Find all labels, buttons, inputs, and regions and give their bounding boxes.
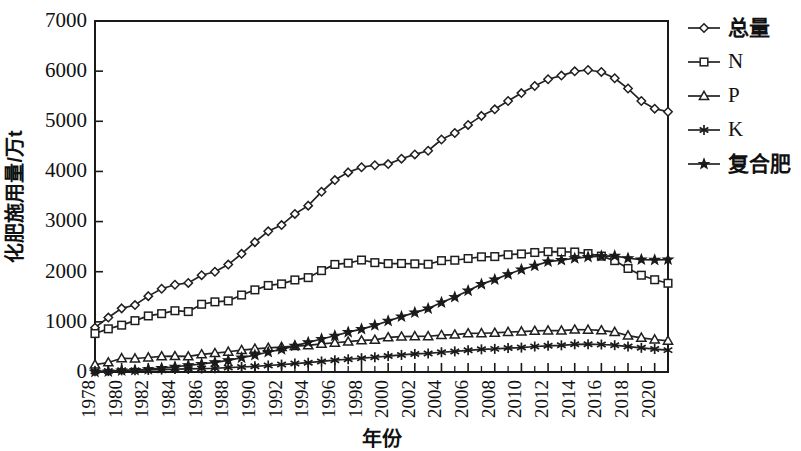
y-tick-label: 0 [77, 359, 88, 383]
x-tick-label: 2018 [611, 380, 632, 418]
x-tick-label: 1986 [185, 380, 206, 418]
y-tick-label: 5000 [45, 108, 87, 132]
x-tick-label: 2008 [478, 380, 499, 418]
y-tick-label: 6000 [45, 58, 87, 82]
legend-item-3[interactable]: P [688, 83, 740, 107]
x-axis-title: 年份 [362, 427, 403, 450]
fertilizer-usage-chart-figure: 01000200030004000500060007000 1978198019… [0, 0, 801, 451]
series-1 [91, 66, 672, 332]
x-tick-label: 1980 [105, 380, 126, 418]
chart-canvas: 01000200030004000500060007000 1978198019… [0, 0, 801, 451]
y-tick-label: 4000 [45, 158, 87, 182]
x-tick-label: 2020 [638, 380, 659, 418]
legend-item-1[interactable]: 总量 [688, 16, 770, 39]
x-tick-label: 1998 [345, 380, 366, 418]
legend-item-2[interactable]: N [688, 49, 743, 73]
legend-label: P [728, 83, 740, 107]
x-tick-label: 1984 [158, 380, 179, 419]
x-tick-label: 2002 [398, 380, 419, 418]
series-markers [91, 66, 672, 332]
legend-item-5[interactable]: 复合肥 [688, 152, 791, 175]
x-tick-label: 2014 [558, 380, 579, 419]
legend-label: K [728, 117, 743, 141]
legend-marker [699, 159, 709, 168]
x-tick-label: 1982 [131, 380, 152, 418]
x-tick-label: 2010 [504, 380, 525, 418]
legend-label: N [728, 49, 743, 73]
legend-marker [700, 24, 708, 32]
chart-legend: 总量NPK复合肥 [688, 16, 791, 175]
x-tick-label: 2004 [424, 380, 445, 419]
x-tick-label: 1996 [318, 380, 339, 418]
legend-item-4[interactable]: K [688, 117, 743, 141]
x-tick-label: 1988 [211, 380, 232, 418]
x-tick-label: 1978 [78, 380, 99, 418]
x-tick-label: 1992 [265, 380, 286, 418]
data-series-group [90, 66, 673, 376]
y-tick-label: 3000 [45, 208, 87, 232]
y-tick-label: 2000 [45, 259, 87, 283]
x-tick-label: 1994 [291, 380, 312, 419]
legend-marker [700, 58, 708, 66]
legend-label: 总量 [728, 16, 770, 39]
x-tick-label: 2016 [584, 380, 605, 418]
plot-frame [95, 21, 668, 372]
x-tick-label: 2000 [371, 380, 392, 418]
x-tick-label: 2006 [451, 380, 472, 418]
y-axis-title: 化肥施用量/万t [3, 130, 26, 263]
x-tick-label: 1990 [238, 380, 259, 418]
x-tick-label: 2012 [531, 380, 552, 418]
y-tick-label: 1000 [45, 309, 87, 333]
legend-label: 复合肥 [727, 152, 791, 175]
y-tick-label: 7000 [45, 8, 87, 32]
